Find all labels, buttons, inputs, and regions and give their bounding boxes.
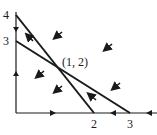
y-tick-4: 4 xyxy=(3,8,9,22)
axis-arrows xyxy=(13,27,152,116)
y-tick-3: 3 xyxy=(3,34,9,48)
x-tick-3: 3 xyxy=(127,117,133,131)
shallow-nullcline xyxy=(16,41,130,113)
equilibrium-label: (1, 2) xyxy=(62,55,88,69)
x-tick-2: 2 xyxy=(91,117,97,131)
phase-plane-diagram: 4 3 2 3 (1, 2) xyxy=(0,0,157,135)
